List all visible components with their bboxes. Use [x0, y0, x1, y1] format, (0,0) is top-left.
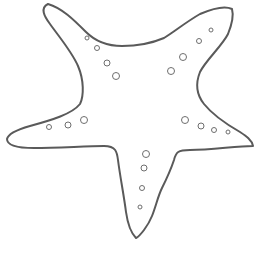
starfish-outline: [7, 4, 253, 238]
starfish-dot-left: [65, 122, 71, 128]
starfish-dot-bottom: [140, 186, 145, 191]
starfish-dot-top-left: [95, 46, 100, 51]
starfish-dot-bottom: [141, 165, 147, 171]
starfish-dot-top-left: [104, 60, 110, 66]
starfish-dot-top-left: [113, 73, 120, 80]
starfish-canvas: [0, 0, 255, 253]
starfish-dot-right: [198, 123, 204, 129]
starfish-dots-group: [47, 28, 231, 209]
starfish-dot-top-right: [209, 28, 213, 32]
starfish-dot-right: [226, 130, 230, 134]
starfish-dot-bottom: [138, 205, 142, 209]
starfish-dot-right: [182, 117, 189, 124]
starfish-dot-right: [212, 128, 217, 133]
starfish-dot-left: [47, 125, 52, 130]
starfish-dot-top-right: [197, 39, 202, 44]
starfish-dot-top-right: [168, 68, 175, 75]
starfish-dot-top-left: [85, 36, 89, 40]
starfish-dot-bottom: [143, 151, 150, 158]
starfish-dot-top-right: [180, 54, 187, 61]
starfish-illustration: [0, 0, 255, 253]
starfish-dot-left: [81, 117, 88, 124]
